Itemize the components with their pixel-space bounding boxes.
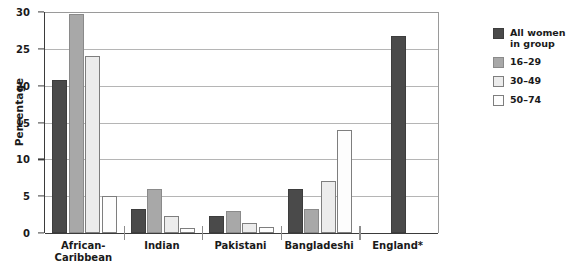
legend-item-label: 50–74 <box>510 94 541 105</box>
bar <box>304 209 319 233</box>
x-axis-label-0: African- Caribbean <box>55 240 112 263</box>
gridline-20 <box>45 86 438 87</box>
legend-item[interactable]: 30–49 <box>493 75 572 87</box>
bar <box>164 216 179 233</box>
bar <box>321 181 336 233</box>
bar <box>147 189 162 233</box>
y-tick-label-5: 5 <box>2 191 30 202</box>
bar <box>131 209 146 233</box>
bar-chart: Percentage 051015202530 African- Caribbe… <box>0 0 572 265</box>
bar <box>209 216 224 233</box>
category-separator <box>202 226 203 240</box>
bar <box>242 223 257 233</box>
x-axis-label-3: Bangladeshi <box>284 240 353 252</box>
bar <box>259 227 274 233</box>
bar <box>180 228 195 233</box>
plot-area <box>44 12 439 233</box>
y-tick-label-20: 20 <box>2 80 30 91</box>
legend-item[interactable]: 50–74 <box>493 94 572 106</box>
y-tick-label-0: 0 <box>2 228 30 239</box>
bar <box>337 130 352 233</box>
legend-item-label: 16–29 <box>510 56 541 67</box>
bar <box>391 36 406 233</box>
legend-swatch-icon <box>493 28 504 39</box>
bar <box>226 211 241 233</box>
legend-item-label: All women in group <box>510 27 566 49</box>
legend-item[interactable]: All women in group <box>493 27 572 49</box>
legend-swatch-icon <box>493 76 504 87</box>
x-axis-label-1: Indian <box>144 240 179 252</box>
y-tick-label-15: 15 <box>2 117 30 128</box>
gridline-10 <box>45 159 438 160</box>
x-axis-label-2: Pakistani <box>215 240 267 252</box>
x-axis-label-4: England* <box>372 240 423 252</box>
category-separator <box>359 226 360 240</box>
gridline-25 <box>45 49 438 50</box>
legend-item[interactable]: 16–29 <box>493 56 572 68</box>
gridline-15 <box>45 123 438 124</box>
y-tick-label-10: 10 <box>2 154 30 165</box>
category-separator <box>281 226 282 240</box>
legend-swatch-icon <box>493 95 504 106</box>
gridline-0 <box>45 233 438 234</box>
y-tick-label-30: 30 <box>2 7 30 18</box>
legend-swatch-icon <box>493 57 504 68</box>
legend-item-label: 30–49 <box>510 75 541 86</box>
bar <box>69 14 84 233</box>
bar <box>288 189 303 233</box>
gridline-30 <box>45 12 438 13</box>
bar <box>102 196 117 233</box>
bar <box>52 80 67 233</box>
y-tick-label-25: 25 <box>2 43 30 54</box>
category-separator <box>124 226 125 240</box>
bar <box>85 56 100 233</box>
legend: All women in group16–2930–4950–74 <box>493 27 572 113</box>
